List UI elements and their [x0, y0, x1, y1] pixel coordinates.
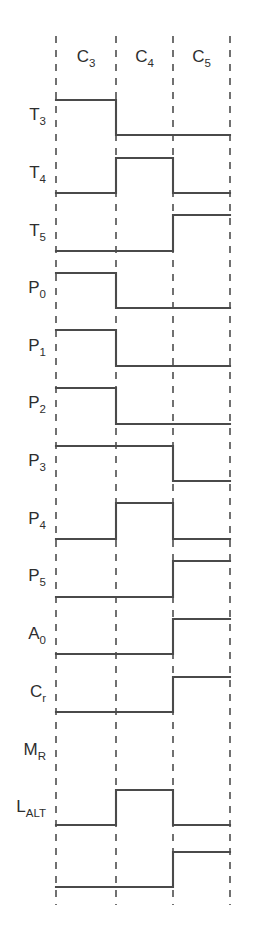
- waveform-Cr: [56, 677, 230, 712]
- signal-label-P2: P2: [28, 393, 46, 415]
- waveform-P0: [56, 273, 230, 308]
- signal-label-P5: P5: [28, 566, 46, 588]
- waveform-LALT: [56, 852, 230, 887]
- waveform-P4: [56, 503, 230, 539]
- waveform-MR: [56, 790, 230, 825]
- signal-label-P1: P1: [28, 336, 46, 358]
- waveform-T3: [56, 100, 230, 135]
- waveform-P1: [56, 330, 230, 366]
- clock-label-C4: C4: [135, 47, 154, 69]
- signal-label-P0: P0: [28, 278, 46, 300]
- waveform-T4: [56, 158, 230, 193]
- clock-label-C3: C3: [77, 47, 96, 69]
- signal-label-P4: P4: [28, 509, 46, 531]
- waveform-A0: [56, 619, 230, 654]
- timing-diagram-canvas: C3C4C5 T3T4T5P0P1P2P3P4P5A0CrMRLALT: [0, 0, 255, 933]
- signal-label-T4: T4: [29, 163, 46, 185]
- clock-label-row: C3C4C5: [77, 47, 211, 69]
- signal-label-A0: A0: [28, 624, 46, 646]
- waveform-P5: [56, 561, 230, 597]
- waveform-group: [56, 100, 230, 887]
- signal-label-T3: T3: [29, 105, 46, 127]
- signal-label-Cr: Cr: [30, 682, 46, 704]
- waveform-P3: [56, 446, 230, 481]
- signal-label-P3: P3: [28, 451, 46, 473]
- timing-diagram: C3C4C5 T3T4T5P0P1P2P3P4P5A0CrMRLALT: [0, 0, 255, 933]
- clock-boundary-gridlines: [56, 36, 230, 905]
- waveform-P2: [56, 388, 230, 424]
- signal-label-MR: MR: [24, 740, 46, 762]
- waveform-T5: [56, 215, 230, 251]
- signal-label-LALT: LALT: [16, 797, 46, 819]
- signal-label-T5: T5: [29, 221, 46, 243]
- clock-label-C5: C5: [192, 47, 211, 69]
- signal-label-column: T3T4T5P0P1P2P3P4P5A0CrMRLALT: [16, 105, 46, 819]
